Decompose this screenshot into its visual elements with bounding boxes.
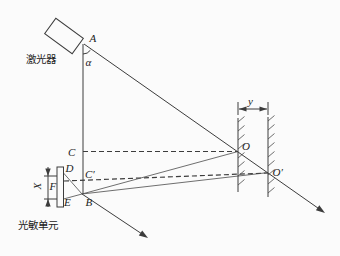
label-point-c: C — [68, 146, 76, 158]
diagram-canvas: A α C C′ O O′ D E B F X y 激光器 光敏单元 — [0, 0, 340, 256]
screen-right — [268, 116, 275, 198]
sensor-strip — [57, 167, 64, 207]
y-dimension — [238, 102, 268, 115]
y-dim-arrow-right-icon — [260, 106, 268, 111]
label-laser-device: 激光器 — [26, 53, 57, 65]
label-point-e: E — [63, 196, 71, 208]
label-dim-x: X — [31, 181, 43, 190]
beam-arrowhead-icon — [316, 205, 325, 213]
label-point-a: A — [89, 32, 97, 44]
label-photosensitive-unit: 光敏单元 — [18, 219, 59, 231]
label-point-c-prime: C′ — [85, 168, 95, 180]
label-point-o-prime: O′ — [273, 166, 284, 178]
ray-b-to-o — [82, 152, 238, 195]
ray-b-to-d — [64, 173, 83, 194]
y-dim-arrow-left-icon — [239, 106, 247, 111]
optics-diagram: A α C C′ O O′ D E B F X y 激光器 光敏单元 — [0, 0, 340, 256]
label-dim-y: y — [247, 95, 253, 107]
label-angle-alpha: α — [86, 56, 92, 68]
angle-arc — [83, 50, 90, 54]
label-point-b: B — [86, 196, 93, 208]
screen-right-hatching — [268, 116, 275, 194]
x-dim-arrow-up-icon — [45, 199, 50, 207]
label-point-d: D — [65, 162, 74, 174]
x-dim-arrow-down-icon — [45, 169, 50, 177]
label-point-o: O — [242, 140, 250, 152]
scattered-ray-arrowhead-icon — [139, 231, 148, 239]
label-point-f: F — [49, 180, 57, 192]
laser-box — [45, 18, 84, 53]
